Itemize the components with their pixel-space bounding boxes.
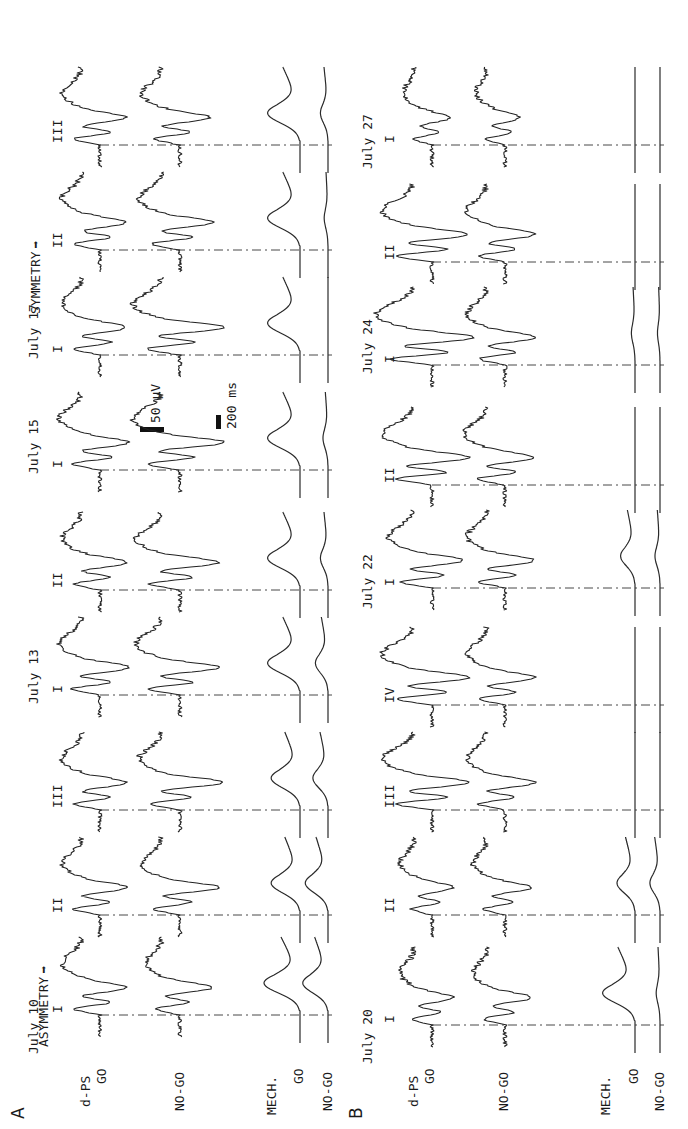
dps-go-trace xyxy=(380,627,470,727)
trial-B-july-20-I: I xyxy=(382,947,664,1053)
dps-nogo-trace xyxy=(463,407,534,507)
row-label-go-b: GO xyxy=(422,1068,437,1084)
dps-go-trace xyxy=(381,732,469,832)
time-scale-bar xyxy=(216,415,221,429)
dps-go-trace xyxy=(59,732,127,832)
trial-label: II xyxy=(382,467,397,483)
dps-nogo-trace xyxy=(134,617,220,717)
trial-A-july-17-III: III xyxy=(50,67,332,173)
dps-go-trace xyxy=(60,937,127,1037)
row-label-mech-go-b: GO xyxy=(626,1068,641,1084)
date-label: July 17 xyxy=(26,304,41,359)
dps-nogo-trace xyxy=(146,937,212,1037)
date-label: July 22 xyxy=(360,554,375,609)
trial-B-july-22-II: II xyxy=(382,407,664,513)
trial-label: II xyxy=(382,244,397,260)
dps-go-trace xyxy=(60,67,128,167)
dps-nogo-trace xyxy=(465,184,536,284)
mech-nogo-trace xyxy=(320,67,328,173)
dps-go-trace xyxy=(374,287,474,387)
trial-A-july-17-I: I xyxy=(50,277,332,383)
mech-nogo-trace xyxy=(323,392,328,498)
mech-nogo-trace xyxy=(303,937,328,1043)
dps-go-trace xyxy=(403,67,451,167)
trial-A-july-13-I: I xyxy=(50,617,332,723)
trial-label: I xyxy=(382,578,397,586)
mech-go-trace xyxy=(268,617,300,723)
mech-nogo-trace xyxy=(324,172,328,278)
trial-label: III xyxy=(50,785,65,808)
dps-nogo-trace xyxy=(470,837,531,937)
dps-nogo-trace xyxy=(136,172,214,272)
dps-nogo-trace xyxy=(130,277,224,377)
trial-label: I xyxy=(50,1005,65,1013)
trial-label: IV xyxy=(382,687,397,703)
dps-nogo-trace xyxy=(133,512,219,612)
mech-go-trace xyxy=(268,172,300,278)
row-label-dps-a: d-PS xyxy=(78,1076,93,1107)
dps-go-trace xyxy=(382,407,470,507)
row-label-go-a: GO xyxy=(94,1068,109,1084)
mech-nogo-trace xyxy=(305,837,328,943)
dps-go-trace xyxy=(57,392,130,492)
dps-go-trace xyxy=(380,184,467,284)
symmetry-label: SYMMETRY➡ xyxy=(28,240,43,314)
dps-go-trace xyxy=(57,617,129,717)
trial-B-july-22-I: I xyxy=(382,510,664,616)
dps-go-trace xyxy=(386,510,462,610)
dps-nogo-trace xyxy=(137,732,223,832)
date-label: July 13 xyxy=(26,649,41,704)
dps-go-trace xyxy=(399,947,455,1047)
mech-nogo-trace xyxy=(315,617,328,723)
trial-label: I xyxy=(50,345,65,353)
trial-A-july-15-I: I xyxy=(50,392,332,498)
mech-go-trace xyxy=(268,67,300,173)
dps-nogo-trace xyxy=(466,510,534,610)
panel-a-label: A xyxy=(8,1107,28,1119)
row-label-nogo-b: NO-GO xyxy=(496,1072,511,1111)
date-label: July 10 xyxy=(26,999,41,1054)
row-label-mech-b: MECH. xyxy=(598,1076,613,1115)
mech-go-trace xyxy=(271,837,300,943)
mech-go-trace xyxy=(268,512,300,618)
mech-nogo-trace xyxy=(650,837,660,943)
trial-label: I xyxy=(382,135,397,143)
traces-layer: IIIIIIIIIIIIIIIIIIIIIIIVIIIIIIIJuly 10Ju… xyxy=(26,67,664,1064)
row-label-mech-nogo-a: NO-GO xyxy=(320,1072,335,1111)
trial-B-july-20-III: III xyxy=(381,732,664,838)
trial-label: I xyxy=(382,355,397,363)
dps-go-trace xyxy=(398,837,454,937)
trial-B-july-20-II: II xyxy=(382,837,664,943)
date-label: July 20 xyxy=(360,1009,375,1064)
mech-go-trace xyxy=(621,510,635,616)
mech-go-trace xyxy=(264,937,300,1043)
panel-b-label: B xyxy=(346,1107,366,1119)
dps-go-trace xyxy=(59,172,126,272)
dps-nogo-trace xyxy=(140,67,211,167)
mech-nogo-trace xyxy=(313,732,328,838)
date-label: July 27 xyxy=(360,114,375,169)
trial-A-july-10-II: II xyxy=(50,837,332,943)
trial-A-july-10-III: III xyxy=(50,732,332,838)
dps-nogo-trace xyxy=(465,627,536,727)
dps-nogo-trace xyxy=(465,287,535,387)
trial-label: II xyxy=(50,572,65,588)
mech-nogo-trace xyxy=(658,287,661,393)
scale-bar: 50 µV 200 ms xyxy=(140,382,239,432)
dps-nogo-trace xyxy=(472,947,531,1047)
trial-label: I xyxy=(50,460,65,468)
trial-B-july-27-I: I xyxy=(382,67,664,173)
dps-go-trace xyxy=(60,512,127,612)
dps-nogo-trace xyxy=(140,837,219,937)
mech-nogo-trace xyxy=(320,512,328,618)
mech-nogo-trace xyxy=(655,510,660,616)
mech-go-trace xyxy=(268,392,300,498)
trial-B-july-24-I: I xyxy=(374,287,664,393)
dps-nogo-trace xyxy=(466,732,536,832)
mech-go-trace xyxy=(271,732,300,838)
row-label-mech-nogo-b: NO-GO xyxy=(652,1072,667,1111)
dps-go-trace xyxy=(62,277,125,377)
time-scale-label: 200 ms xyxy=(224,382,239,429)
dps-nogo-trace xyxy=(475,67,521,167)
dps-nogo-trace xyxy=(130,392,224,492)
